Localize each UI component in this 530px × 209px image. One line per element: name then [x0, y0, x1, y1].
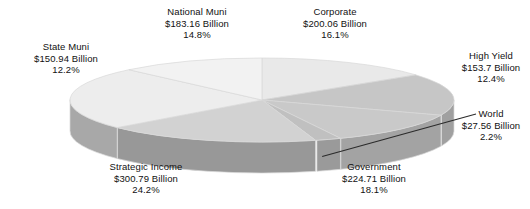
slice-label-percent: 24.2%	[84, 184, 208, 196]
slice-label-world: World $27.56 Billion 2.2%	[452, 108, 530, 143]
slice-label-value: $224.71 Billion	[313, 173, 435, 185]
slice-label-name: Strategic Income	[84, 161, 208, 173]
slice-label-value: $183.16 Billion	[137, 18, 257, 30]
slice-label-name: State Muni	[7, 41, 125, 53]
slice-label-name: High Yield	[452, 50, 530, 62]
slice-label-strategic-income: Strategic Income $300.79 Billion 24.2%	[84, 161, 208, 196]
slice-label-value: $200.06 Billion	[275, 18, 395, 30]
slice-label-corporate: Corporate $200.06 Billion 16.1%	[275, 6, 395, 41]
pie-chart-figure: National Muni $183.16 Billion 14.8% Corp…	[0, 0, 530, 209]
slice-label-name: World	[452, 108, 530, 120]
slice-label-value: $27.56 Billion	[452, 120, 530, 132]
slice-label-percent: 12.4%	[452, 73, 530, 85]
slice-label-name: Corporate	[275, 6, 395, 18]
slice-label-high-yield: High Yield $153.7 Billion 12.4%	[452, 50, 530, 85]
slice-label-percent: 12.2%	[7, 64, 125, 76]
slice-label-name: National Muni	[137, 6, 257, 18]
slice-label-percent: 18.1%	[313, 184, 435, 196]
slice-label-value: $153.7 Billion	[452, 62, 530, 74]
slice-label-name: Government	[313, 161, 435, 173]
slice-label-percent: 2.2%	[452, 131, 530, 143]
slice-label-value: $150.94 Billion	[7, 53, 125, 65]
slice-label-government: Government $224.71 Billion 18.1%	[313, 161, 435, 196]
slice-label-percent: 16.1%	[275, 29, 395, 41]
pie-chart-graphic	[0, 0, 530, 209]
slice-label-national-muni: National Muni $183.16 Billion 14.8%	[137, 6, 257, 41]
slice-label-value: $300.79 Billion	[84, 173, 208, 185]
pie-top-surfaces	[70, 58, 454, 142]
slice-label-percent: 14.8%	[137, 29, 257, 41]
slice-label-state-muni: State Muni $150.94 Billion 12.2%	[7, 41, 125, 76]
